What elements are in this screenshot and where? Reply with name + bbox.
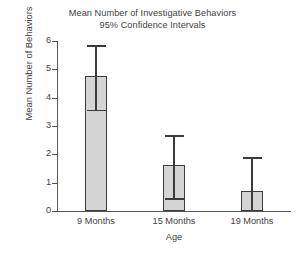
chart-figure: Mean Number of Investigative Behaviors 9… [0, 0, 305, 254]
y-tick-mark [52, 41, 57, 42]
y-tick-label: 0 [29, 205, 51, 215]
error-bar-cap-upper [243, 157, 262, 159]
error-bar-cap-upper [165, 135, 184, 137]
x-tick-label: 15 Months [136, 216, 212, 226]
x-tick-label: 19 Months [214, 216, 290, 226]
error-bar-line [173, 135, 175, 198]
y-axis-title: Mean Number of Behaviors [23, 0, 34, 144]
y-tick-mark [52, 126, 57, 127]
y-tick-mark [52, 183, 57, 184]
x-tick-label: 9 Months [58, 216, 134, 226]
error-bar-line [95, 45, 97, 110]
error-bar-line [251, 157, 253, 211]
error-bar-cap-lower [165, 198, 184, 200]
error-bar-cap-upper [87, 45, 106, 47]
y-tick-mark [52, 69, 57, 70]
x-axis-title: Age [57, 232, 291, 242]
y-tick-label: 1 [29, 177, 51, 187]
y-tick-mark [52, 98, 57, 99]
x-axis-line [57, 211, 291, 212]
y-tick-mark [52, 154, 57, 155]
error-bar-cap-lower [87, 110, 106, 112]
plot-area: 0123456 9 Months15 Months19 Months Age M… [0, 0, 305, 254]
y-tick-label: 2 [29, 148, 51, 158]
y-tick-mark [52, 211, 57, 212]
y-axis-line [57, 41, 58, 212]
